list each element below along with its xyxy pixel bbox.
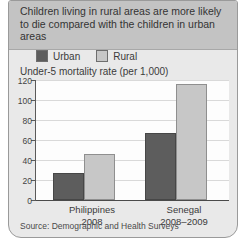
legend: Urban Rural bbox=[36, 50, 137, 62]
source-note: Source: Demographic and Health Surveys bbox=[20, 221, 179, 231]
bar-rural-senegal bbox=[176, 84, 207, 200]
y-tick-label-120: 120 bbox=[8, 76, 32, 86]
y-tick-label-20: 20 bbox=[8, 176, 32, 186]
y-tick-label-60: 60 bbox=[8, 136, 32, 146]
legend-item-urban: Urban bbox=[36, 50, 80, 62]
y-tick-label-0: 0 bbox=[8, 196, 32, 206]
urban-swatch-icon bbox=[36, 50, 48, 62]
legend-item-rural: Rural bbox=[96, 50, 137, 62]
infographic-card: Children living in rural areas are more … bbox=[8, 0, 238, 238]
y-tick-label-100: 100 bbox=[8, 96, 32, 106]
bar-rural-philippines bbox=[84, 154, 115, 200]
gridline-120 bbox=[36, 80, 229, 81]
legend-label-urban: Urban bbox=[53, 51, 80, 62]
bar-urban-senegal bbox=[145, 133, 176, 200]
y-axis-title: Under-5 mortality rate (per 1,000) bbox=[20, 66, 168, 77]
bar-urban-philippines bbox=[53, 173, 84, 200]
chart-headline: Children living in rural areas are more … bbox=[9, 1, 237, 50]
rural-swatch-icon bbox=[96, 50, 108, 62]
legend-label-rural: Rural bbox=[113, 51, 137, 62]
plot-area: 020406080100120Philippines2008Senegal200… bbox=[35, 81, 229, 201]
y-tick-label-40: 40 bbox=[8, 156, 32, 166]
y-tick-label-80: 80 bbox=[8, 116, 32, 126]
